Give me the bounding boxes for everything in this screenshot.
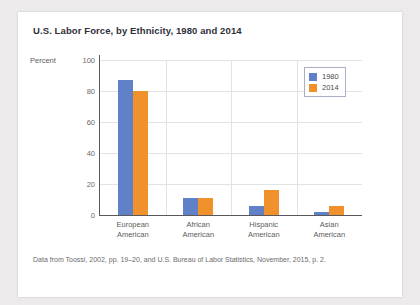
y-axis-label: Percent (30, 56, 56, 65)
source-note: Data from Toossi, 2002, pp. 19–20, and U… (33, 255, 373, 265)
chart-card: U.S. Labor Force, by Ethnicity, 1980 and… (18, 12, 402, 297)
legend-swatch (309, 73, 317, 81)
bar (314, 212, 329, 215)
bar-group: HispanicAmerican (231, 60, 297, 215)
y-tick-label: 80 (87, 87, 95, 96)
category-label-line: Asian (313, 220, 345, 230)
plot-area: 020406080100 EuropeanAmericanAfricanAmer… (100, 60, 362, 215)
chart-legend: 19802014 (304, 67, 346, 97)
legend-item: 1980 (309, 71, 339, 82)
bar (198, 198, 213, 215)
bar (118, 80, 133, 215)
bar (264, 190, 279, 215)
bar-pair (166, 60, 232, 215)
bar-group: EuropeanAmerican (100, 60, 166, 215)
legend-swatch (309, 84, 317, 92)
category-label-line: Hispanic (248, 220, 280, 230)
y-tick-label: 40 (87, 149, 95, 158)
x-axis-category-label: AfricanAmerican (182, 220, 214, 239)
legend-label: 2014 (322, 83, 339, 92)
y-tick-label: 20 (87, 180, 95, 189)
x-axis-category-label: EuropeanAmerican (116, 220, 149, 239)
y-tick-label: 100 (82, 56, 95, 65)
bar-pair (100, 60, 166, 215)
category-label-line: American (248, 230, 280, 240)
figure-root: U.S. Labor Force, by Ethnicity, 1980 and… (0, 0, 420, 305)
chart-title: U.S. Labor Force, by Ethnicity, 1980 and… (33, 25, 242, 36)
bar (183, 198, 198, 215)
category-label-line: American (116, 230, 149, 240)
category-label-line: American (182, 230, 214, 240)
y-tick-label: 0 (91, 211, 95, 220)
category-label-line: American (313, 230, 345, 240)
x-axis-category-label: HispanicAmerican (248, 220, 280, 239)
legend-item: 2014 (309, 82, 339, 93)
category-label-line: European (116, 220, 149, 230)
bar-group: AfricanAmerican (166, 60, 232, 215)
x-axis-line (99, 215, 362, 216)
bar (133, 91, 148, 215)
bar (249, 206, 264, 215)
legend-label: 1980 (322, 72, 339, 81)
bar-pair (231, 60, 297, 215)
y-tick-label: 60 (87, 118, 95, 127)
bar (329, 206, 344, 215)
category-label-line: African (182, 220, 214, 230)
x-axis-category-label: AsianAmerican (313, 220, 345, 239)
